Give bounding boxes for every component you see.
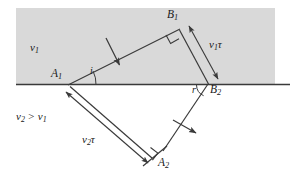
wavefront-distance-label-v1tau: v1τ [209,39,222,52]
wavefront-distance-label-v2tau: v2τ [82,134,95,147]
refracted-ray-b2 [163,84,208,151]
angle-label-incidence: i [90,66,93,76]
wavefront-distance-v2tau-arrow [66,92,148,163]
medium-1-speed-label: v1 [30,42,39,55]
angle-label-refraction: r [192,85,196,95]
point-label-b1: B1 [167,9,178,23]
speed-inequality-label: v2 > v1 [16,111,47,124]
point-label-a2: A2 [158,157,169,171]
angle-arc-refraction [197,85,204,96]
construction-line-a1-to-a2 [70,87,152,159]
diagram-canvas [0,0,292,178]
point-label-a1: A1 [51,68,62,82]
point-label-b2: B2 [210,84,221,98]
refraction-diagram: v1 v2 > v1 A1 B1 B2 A2 i r v1τ v2τ [0,0,292,178]
